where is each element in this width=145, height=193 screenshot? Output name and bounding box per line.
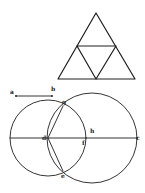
inner-triangle [77,46,116,79]
label-h: h [90,127,95,134]
label-c: c [136,134,140,141]
point-a-dot [15,95,17,97]
label-d: d [42,134,47,141]
subdivided-triangle [58,13,135,79]
label-e: e [61,172,65,179]
point-b-dot [51,95,53,97]
circle-construction [10,93,137,183]
segment-ab: a b [10,85,55,97]
label-b: b [51,85,55,92]
label-a: a [10,88,14,95]
geometric-construction-figure: a b d c h f g e [0,0,145,193]
label-f: f [82,139,85,146]
